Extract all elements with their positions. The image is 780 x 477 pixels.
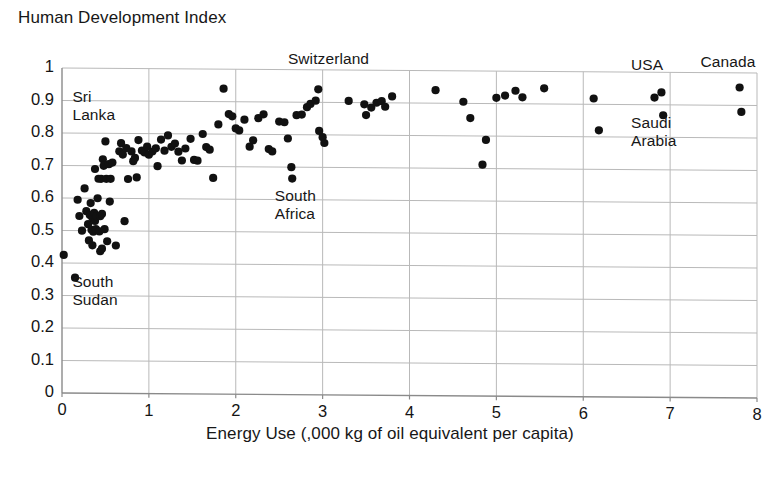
data-point [209, 174, 217, 182]
annotation-canada: Canada [701, 53, 756, 71]
y-tick-label: 0.1 [31, 350, 54, 369]
chart-figure: Human Development Index 00.10.20.30.40.5… [0, 0, 780, 477]
data-point [259, 110, 267, 118]
data-point [124, 175, 132, 183]
data-point [298, 110, 306, 118]
data-point [108, 159, 116, 167]
data-point [284, 134, 292, 142]
data-point [134, 136, 142, 144]
data-point [287, 163, 295, 171]
data-points [60, 83, 746, 281]
data-point [478, 161, 486, 169]
data-point [540, 84, 548, 92]
data-point [650, 94, 658, 102]
data-point [362, 111, 370, 119]
data-point [78, 227, 86, 235]
data-point [178, 156, 186, 164]
x-tick-label: 3 [303, 402, 343, 421]
data-point [100, 225, 108, 233]
data-point [314, 85, 322, 93]
x-tick-label: 1 [129, 401, 169, 420]
data-point [186, 135, 194, 143]
data-point [388, 92, 396, 100]
y-tick-label: 0.4 [31, 252, 54, 271]
y-tick-label: 0.7 [31, 155, 54, 174]
x-tick-label: 7 [650, 404, 690, 423]
data-point [160, 147, 168, 155]
data-point [98, 245, 106, 253]
data-point [181, 144, 189, 152]
y-tick-label: 0.5 [31, 220, 54, 239]
data-point [249, 136, 257, 144]
data-point [94, 194, 102, 202]
data-point [219, 85, 227, 93]
data-point [106, 197, 114, 205]
y-tick-label: 0.9 [31, 90, 54, 109]
data-point [288, 174, 296, 182]
x-tick-label: 2 [216, 401, 256, 420]
data-point [228, 112, 236, 120]
x-axis-title: Energy Use (,000 kg of oil equivalent pe… [0, 424, 780, 444]
annotation-south-sudan: South Sudan [72, 273, 117, 309]
data-point [103, 237, 111, 245]
data-point [80, 184, 88, 192]
data-point [466, 114, 474, 122]
data-point [206, 146, 214, 154]
y-tick-label: 0.6 [31, 187, 54, 206]
x-tick-label: 8 [737, 405, 777, 424]
x-tick-label: 5 [476, 403, 516, 422]
data-point [312, 97, 320, 105]
data-point [345, 97, 353, 105]
y-tick-label: 0.8 [31, 122, 54, 141]
data-point [120, 217, 128, 225]
data-point [87, 199, 95, 207]
data-point [518, 93, 526, 101]
annotation-sri-lanka: Sri Lanka [72, 88, 115, 124]
data-point [88, 241, 96, 249]
data-point [171, 139, 179, 147]
data-point [320, 139, 328, 147]
data-point [133, 173, 141, 181]
data-point [360, 100, 368, 108]
y-tick-label: 0 [45, 382, 54, 401]
data-point [737, 108, 745, 116]
data-point [280, 118, 288, 126]
data-point [736, 83, 744, 91]
data-point [381, 103, 389, 111]
data-point [199, 130, 207, 138]
data-point [157, 135, 165, 143]
data-point [511, 87, 519, 95]
data-point [590, 94, 598, 102]
data-point [91, 165, 99, 173]
data-point [152, 144, 160, 152]
data-point [214, 120, 222, 128]
data-point [107, 175, 115, 183]
y-tick-label: 0.2 [31, 317, 54, 336]
data-point [75, 212, 83, 220]
annotation-south-africa: South Africa [275, 187, 316, 223]
data-point [657, 88, 665, 96]
annotation-switzerland: Switzerland [288, 50, 369, 68]
data-point [60, 251, 68, 259]
data-point [98, 210, 106, 218]
data-point [112, 241, 120, 249]
data-point [431, 86, 439, 94]
data-point [482, 136, 490, 144]
data-point [459, 98, 467, 106]
data-point [235, 126, 243, 134]
data-point [492, 94, 500, 102]
data-point [501, 91, 509, 99]
annotation-saudi-arabia: Saudi Arabia [631, 114, 676, 150]
x-tick-label: 6 [563, 404, 603, 423]
data-point [268, 147, 276, 155]
data-point [164, 131, 172, 139]
data-point [193, 157, 201, 165]
data-point [240, 116, 248, 124]
data-point [131, 154, 139, 162]
x-tick-label: 0 [42, 400, 82, 419]
y-tick-label: 0.3 [31, 285, 54, 304]
y-tick-label: 1 [45, 57, 54, 76]
data-point [595, 126, 603, 134]
data-point [74, 196, 82, 204]
annotation-usa: USA [631, 56, 663, 74]
